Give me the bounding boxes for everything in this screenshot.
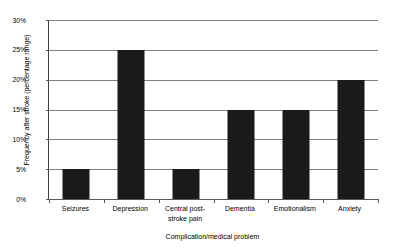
y-tick-label: 25% <box>0 46 26 53</box>
x-tick-mark <box>268 199 269 203</box>
x-tick-mark <box>49 199 50 203</box>
x-category-label: Anxiety <box>322 204 377 214</box>
x-tick-mark <box>323 199 324 203</box>
bar-slot <box>268 20 323 199</box>
bar-slot <box>214 20 269 199</box>
x-category-label: Emotionalism <box>267 204 322 214</box>
plot-area: 0%5%10%15%20%25%30% <box>48 20 378 199</box>
x-category-label: Depression <box>103 204 158 214</box>
y-tick-label: 0% <box>0 196 26 203</box>
x-category-label: Seizures <box>48 204 103 214</box>
x-tick-mark <box>378 199 379 203</box>
bar-slot <box>323 20 378 199</box>
y-tick-label: 15% <box>0 106 26 113</box>
x-category-label: Central post-stroke pain <box>158 204 213 223</box>
y-tick-label: 20% <box>0 76 26 83</box>
bar <box>63 169 90 199</box>
bar <box>282 110 309 200</box>
bars <box>49 20 378 199</box>
bar-slot <box>49 20 104 199</box>
bar-slot <box>159 20 214 199</box>
x-axis-category-labels: SeizuresDepressionCentral post-stroke pa… <box>48 204 377 230</box>
x-tick-mark <box>104 199 105 203</box>
bar-slot <box>104 20 159 199</box>
x-tick-mark <box>159 199 160 203</box>
x-axis-title: Complication/medical problem <box>48 232 377 241</box>
y-tick-label: 30% <box>0 17 26 24</box>
y-tick-label: 5% <box>0 166 26 173</box>
bar <box>337 80 364 199</box>
bar <box>227 110 254 200</box>
bar-chart: Frequency after stroke (percentage range… <box>0 0 396 252</box>
bar <box>118 50 145 199</box>
y-tick-label: 10% <box>0 136 26 143</box>
x-tick-mark <box>214 199 215 203</box>
bar <box>173 169 200 199</box>
x-category-label: Dementia <box>213 204 268 214</box>
